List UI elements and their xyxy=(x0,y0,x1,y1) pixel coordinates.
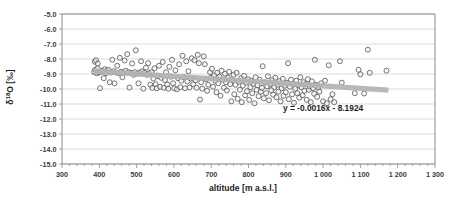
data-point-marker xyxy=(195,52,200,57)
y-axis-title-rest: O [‰] xyxy=(5,69,15,93)
y-tick-label: -14.0 xyxy=(40,145,56,154)
chart-screenshot: -5.0-6.0-7.0-8.0-9.0-10.0-11.0-12.0-13.0… xyxy=(0,0,453,200)
y-tick-label: -8.0 xyxy=(44,55,56,64)
data-point-marker xyxy=(196,61,201,66)
y-tick-label: -7.0 xyxy=(44,40,56,49)
y-tick-label: -12.0 xyxy=(40,115,56,124)
x-tick-label: 1 200 xyxy=(389,170,407,179)
data-point-marker xyxy=(283,90,288,95)
data-point-marker xyxy=(173,68,178,73)
x-tick-label: 400 xyxy=(93,170,105,179)
data-point-marker xyxy=(180,53,185,58)
data-point-marker xyxy=(322,78,327,83)
data-point-marker xyxy=(115,63,120,68)
data-point-marker xyxy=(232,92,237,97)
x-tick-label: 1 100 xyxy=(351,170,369,179)
data-point-marker xyxy=(352,91,357,96)
data-point-marker xyxy=(184,59,189,64)
data-point-marker xyxy=(201,54,206,59)
data-point-marker xyxy=(259,85,264,90)
data-point-marker xyxy=(224,88,229,93)
data-point-marker xyxy=(312,57,317,62)
data-point-marker xyxy=(326,63,331,68)
data-point-marker xyxy=(286,97,291,102)
x-tick-label: 300 xyxy=(56,170,68,179)
data-point-marker xyxy=(211,84,216,89)
data-point-marker xyxy=(317,89,322,94)
data-point-marker xyxy=(178,85,183,90)
trendline-equation: y = -0.0016x - 8.1924 xyxy=(283,103,364,113)
data-point-marker xyxy=(273,75,278,80)
x-tick-label: 800 xyxy=(243,170,255,179)
data-point-marker xyxy=(206,82,211,87)
data-point-marker xyxy=(160,60,165,65)
data-point-marker xyxy=(98,86,103,91)
y-tick-label: -13.0 xyxy=(40,130,56,139)
data-point-marker xyxy=(247,97,252,102)
data-point-marker xyxy=(290,92,295,97)
data-point-marker xyxy=(252,101,257,106)
data-point-marker xyxy=(101,76,106,81)
scatter-chart: -5.0-6.0-7.0-8.0-9.0-10.0-11.0-12.0-13.0… xyxy=(0,0,453,200)
data-point-marker xyxy=(110,57,115,62)
data-point-marker xyxy=(130,61,135,66)
data-point-marker xyxy=(286,61,291,66)
x-tick-label: 500 xyxy=(131,170,143,179)
y-tick-label: -11.0 xyxy=(41,100,57,109)
data-point-marker xyxy=(127,85,132,90)
data-point-marker xyxy=(209,66,214,71)
data-point-marker xyxy=(205,88,210,93)
x-tick-label: 700 xyxy=(205,170,217,179)
data-point-marker xyxy=(122,58,127,63)
data-point-marker xyxy=(194,85,199,90)
data-point-marker xyxy=(170,57,175,62)
data-point-marker xyxy=(171,81,176,86)
x-tick-label: 1 000 xyxy=(314,170,332,179)
data-point-marker xyxy=(192,58,197,63)
y-tick-label: -6.0 xyxy=(44,25,56,34)
data-point-marker xyxy=(95,61,100,66)
data-point-marker xyxy=(337,59,342,64)
annotations: y = -0.0016x - 8.1924 xyxy=(283,103,364,113)
data-point-marker xyxy=(186,69,191,74)
data-point-marker xyxy=(362,91,367,96)
x-tick-label: 1 300 xyxy=(426,170,444,179)
data-point-marker xyxy=(141,86,146,91)
data-point-marker xyxy=(242,73,247,78)
data-point-marker xyxy=(298,75,303,80)
data-point-marker xyxy=(315,94,320,99)
data-point-marker xyxy=(166,86,171,91)
data-point-marker xyxy=(239,100,244,105)
data-point-marker xyxy=(214,90,219,95)
data-point-marker xyxy=(260,64,265,69)
data-point-marker xyxy=(117,55,122,60)
data-point-marker xyxy=(229,99,234,104)
data-point-marker xyxy=(330,92,335,97)
x-tick-label: 600 xyxy=(168,170,180,179)
y-tick-label: -5.0 xyxy=(44,10,56,19)
data-point-marker xyxy=(235,96,240,101)
data-point-marker xyxy=(107,80,112,85)
data-point-marker xyxy=(218,93,223,98)
data-point-marker xyxy=(358,72,363,77)
data-point-marker xyxy=(146,61,151,66)
data-point-marker xyxy=(250,91,255,96)
data-point-marker xyxy=(139,59,144,64)
data-point-marker xyxy=(200,86,205,91)
data-point-marker xyxy=(367,70,372,75)
y-tick-label: -15.0 xyxy=(40,160,56,169)
data-point-marker xyxy=(136,81,141,86)
data-point-marker xyxy=(384,68,389,73)
data-point-marker xyxy=(274,95,279,100)
y-tick-label: -10.0 xyxy=(40,85,56,94)
data-point-marker xyxy=(112,81,117,86)
data-point-marker xyxy=(234,70,239,75)
data-point-marker xyxy=(265,74,270,79)
data-point-marker xyxy=(264,91,269,96)
data-point-marker xyxy=(202,62,207,67)
data-point-marker xyxy=(125,52,130,57)
x-tick-label: 900 xyxy=(280,170,292,179)
data-point-marker xyxy=(133,48,138,53)
data-point-marker xyxy=(365,47,370,52)
data-point-marker xyxy=(177,62,182,67)
